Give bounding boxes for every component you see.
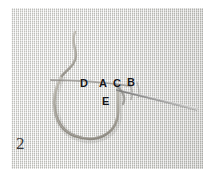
photo-vignette — [11, 8, 203, 169]
photograph-frame: D A C B E 2 — [11, 8, 203, 169]
label-c: C — [113, 78, 121, 89]
label-e: E — [102, 96, 109, 107]
embroidery-step-figure: { "figure": { "kind": "instructional-pho… — [0, 0, 203, 169]
step-number: 2 — [16, 135, 25, 152]
label-b: B — [127, 77, 135, 88]
label-d: D — [80, 78, 88, 89]
label-a: A — [99, 78, 107, 89]
